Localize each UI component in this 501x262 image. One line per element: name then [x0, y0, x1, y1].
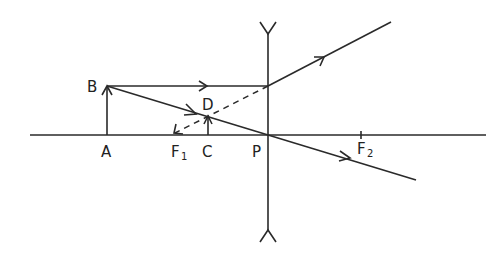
svg-text:F: F [171, 143, 180, 161]
label-F2: F 2 [357, 140, 373, 159]
image-arrow-CD [204, 116, 212, 135]
ray-through-centre [107, 86, 416, 180]
label-C: C [202, 143, 212, 161]
label-D: D [202, 96, 214, 114]
label-F1: F 1 [171, 143, 187, 162]
label-P: P [252, 143, 261, 161]
label-A: A [101, 143, 112, 161]
svg-text:1: 1 [181, 151, 187, 162]
svg-text:F: F [357, 140, 366, 158]
object-arrow-AB [102, 86, 112, 135]
ray-parallel [107, 22, 391, 91]
concave-lens [260, 22, 276, 242]
label-B: B [87, 78, 97, 96]
ray-diagram: B A D C P F 1 F 2 [0, 0, 501, 262]
svg-text:2: 2 [367, 148, 373, 159]
